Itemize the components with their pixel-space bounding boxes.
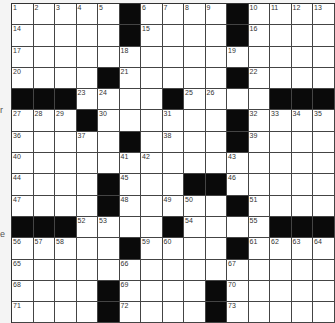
crossword-cell[interactable]: 38 xyxy=(163,132,185,153)
crossword-cell[interactable] xyxy=(249,260,271,281)
crossword-cell[interactable] xyxy=(141,174,163,195)
crossword-cell[interactable]: 40 xyxy=(12,153,34,174)
crossword-cell[interactable]: 67 xyxy=(227,260,249,281)
crossword-cell[interactable] xyxy=(184,68,206,89)
crossword-cell[interactable]: 60 xyxy=(163,238,185,259)
crossword-cell[interactable]: 61 xyxy=(249,238,271,259)
crossword-cell[interactable] xyxy=(163,68,185,89)
crossword-cell[interactable]: 17 xyxy=(12,47,34,68)
crossword-cell[interactable] xyxy=(141,47,163,68)
crossword-cell[interactable]: 36 xyxy=(12,132,34,153)
crossword-cell[interactable] xyxy=(34,260,56,281)
crossword-cell[interactable] xyxy=(206,132,228,153)
crossword-cell[interactable] xyxy=(163,174,185,195)
crossword-cell[interactable]: 52 xyxy=(77,217,99,238)
crossword-cell[interactable]: 57 xyxy=(34,238,56,259)
crossword-cell[interactable]: 45 xyxy=(120,174,142,195)
crossword-cell[interactable] xyxy=(77,302,99,323)
crossword-cell[interactable] xyxy=(292,25,314,46)
crossword-cell[interactable] xyxy=(292,153,314,174)
crossword-cell[interactable]: 53 xyxy=(98,217,120,238)
crossword-cell[interactable] xyxy=(184,153,206,174)
crossword-cell[interactable]: 20 xyxy=(12,68,34,89)
crossword-cell[interactable]: 7 xyxy=(163,4,185,25)
crossword-cell[interactable] xyxy=(270,25,292,46)
crossword-cell[interactable]: 49 xyxy=(163,196,185,217)
crossword-cell[interactable] xyxy=(163,47,185,68)
crossword-cell[interactable] xyxy=(313,174,335,195)
crossword-cell[interactable] xyxy=(206,217,228,238)
crossword-cell[interactable]: 33 xyxy=(270,110,292,131)
crossword-cell[interactable]: 59 xyxy=(141,238,163,259)
crossword-cell[interactable] xyxy=(98,260,120,281)
crossword-cell[interactable] xyxy=(184,260,206,281)
crossword-cell[interactable]: 29 xyxy=(55,110,77,131)
crossword-cell[interactable]: 3 xyxy=(55,4,77,25)
crossword-cell[interactable]: 10 xyxy=(249,4,271,25)
crossword-cell[interactable] xyxy=(77,238,99,259)
crossword-cell[interactable] xyxy=(77,260,99,281)
crossword-cell[interactable] xyxy=(206,110,228,131)
crossword-cell[interactable]: 1 xyxy=(12,4,34,25)
crossword-cell[interactable] xyxy=(227,89,249,110)
crossword-cell[interactable] xyxy=(206,260,228,281)
crossword-cell[interactable]: 34 xyxy=(292,110,314,131)
crossword-cell[interactable] xyxy=(55,25,77,46)
crossword-cell[interactable] xyxy=(270,174,292,195)
crossword-cell[interactable] xyxy=(249,174,271,195)
crossword-cell[interactable] xyxy=(292,196,314,217)
crossword-cell[interactable]: 12 xyxy=(292,4,314,25)
crossword-cell[interactable] xyxy=(270,196,292,217)
crossword-cell[interactable]: 6 xyxy=(141,4,163,25)
crossword-cell[interactable] xyxy=(313,68,335,89)
crossword-cell[interactable]: 18 xyxy=(120,47,142,68)
crossword-cell[interactable]: 72 xyxy=(120,302,142,323)
crossword-cell[interactable] xyxy=(141,281,163,302)
crossword-cell[interactable] xyxy=(292,132,314,153)
crossword-cell[interactable] xyxy=(55,196,77,217)
crossword-cell[interactable]: 55 xyxy=(249,217,271,238)
crossword-cell[interactable] xyxy=(163,281,185,302)
crossword-cell[interactable] xyxy=(227,217,249,238)
crossword-cell[interactable] xyxy=(249,302,271,323)
crossword-cell[interactable] xyxy=(141,89,163,110)
crossword-cell[interactable]: 8 xyxy=(184,4,206,25)
crossword-cell[interactable] xyxy=(249,153,271,174)
crossword-cell[interactable]: 27 xyxy=(12,110,34,131)
crossword-cell[interactable] xyxy=(98,25,120,46)
crossword-cell[interactable] xyxy=(270,68,292,89)
crossword-cell[interactable]: 14 xyxy=(12,25,34,46)
crossword-cell[interactable]: 23 xyxy=(77,89,99,110)
crossword-cell[interactable] xyxy=(292,302,314,323)
crossword-cell[interactable] xyxy=(206,153,228,174)
crossword-cell[interactable]: 2 xyxy=(34,4,56,25)
crossword-cell[interactable] xyxy=(206,47,228,68)
crossword-cell[interactable] xyxy=(34,68,56,89)
crossword-cell[interactable] xyxy=(270,260,292,281)
crossword-cell[interactable] xyxy=(184,281,206,302)
crossword-cell[interactable] xyxy=(270,302,292,323)
crossword-cell[interactable]: 51 xyxy=(249,196,271,217)
crossword-cell[interactable] xyxy=(313,25,335,46)
crossword-cell[interactable]: 11 xyxy=(270,4,292,25)
crossword-cell[interactable]: 42 xyxy=(141,153,163,174)
crossword-cell[interactable]: 16 xyxy=(249,25,271,46)
crossword-cell[interactable]: 65 xyxy=(12,260,34,281)
crossword-cell[interactable]: 35 xyxy=(313,110,335,131)
crossword-cell[interactable]: 69 xyxy=(120,281,142,302)
crossword-cell[interactable] xyxy=(292,174,314,195)
crossword-cell[interactable] xyxy=(77,196,99,217)
crossword-cell[interactable]: 28 xyxy=(34,110,56,131)
crossword-cell[interactable] xyxy=(141,110,163,131)
crossword-cell[interactable]: 21 xyxy=(120,68,142,89)
crossword-cell[interactable] xyxy=(141,217,163,238)
crossword-cell[interactable] xyxy=(141,196,163,217)
crossword-cell[interactable] xyxy=(55,68,77,89)
crossword-cell[interactable]: 26 xyxy=(206,89,228,110)
crossword-cell[interactable] xyxy=(313,47,335,68)
crossword-cell[interactable]: 46 xyxy=(227,174,249,195)
crossword-cell[interactable] xyxy=(313,302,335,323)
crossword-cell[interactable]: 54 xyxy=(184,217,206,238)
crossword-cell[interactable] xyxy=(98,47,120,68)
crossword-cell[interactable] xyxy=(313,196,335,217)
